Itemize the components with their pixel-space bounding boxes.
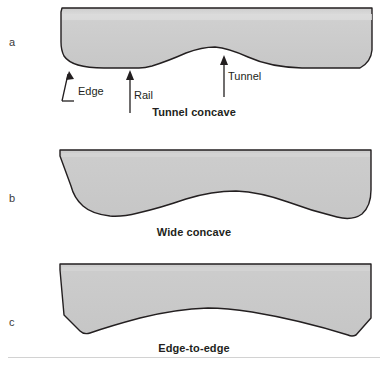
panel-letter-b: b <box>9 193 15 204</box>
panel-a-graphic <box>61 8 372 113</box>
highlight-band-b <box>62 153 370 157</box>
annotation-label-tunnel: Tunnel <box>228 71 261 82</box>
highlight-band-c <box>62 267 370 271</box>
panel-caption-tunnel-concave: Tunnel concave <box>0 107 388 118</box>
panel-caption-wide-concave: Wide concave <box>0 227 388 238</box>
tunnel-arrow-up-icon <box>220 55 228 97</box>
wide-concave-shape <box>60 150 371 218</box>
highlight-band <box>62 14 372 20</box>
annotation-label-rail: Rail <box>134 90 153 101</box>
panel-b-graphic <box>60 150 371 218</box>
annotation-label-edge: Edge <box>78 86 104 97</box>
panel-letter-a: a <box>9 37 15 48</box>
panel-c-graphic <box>60 264 371 336</box>
schematic-diagram <box>0 0 388 369</box>
edge-to-edge-shape <box>60 264 371 336</box>
panel-caption-edge-to-edge: Edge-to-edge <box>0 343 388 354</box>
figure-container: a b c Tunnel concave Wide concave Edge-t… <box>0 0 388 369</box>
panel-letter-c: c <box>9 317 15 328</box>
